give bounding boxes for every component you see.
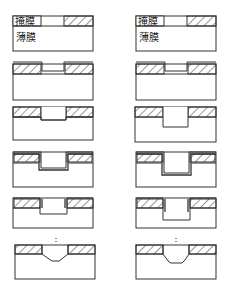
left-step-4 [13, 152, 93, 187]
mask-label-right: 掩膜 [138, 15, 158, 27]
left-column: ⋮ [13, 16, 95, 279]
right-step-2 [136, 62, 216, 100]
left-step-6 [15, 245, 95, 279]
mask-label-left: 掩膜 [15, 15, 35, 27]
right-step-5 [136, 198, 216, 228]
right-column: ⋮ [135, 16, 216, 279]
film-label-right: 薄膜 [139, 31, 159, 43]
right-step-3 [135, 107, 216, 142]
left-step-3 [13, 107, 93, 140]
right-step-6 [136, 245, 216, 279]
right-step-4 [136, 152, 216, 187]
process-diagram: ⋮ [0, 0, 231, 296]
left-step-2 [13, 62, 93, 100]
film-label-left: 薄膜 [16, 31, 36, 43]
left-step-5 [13, 198, 93, 228]
